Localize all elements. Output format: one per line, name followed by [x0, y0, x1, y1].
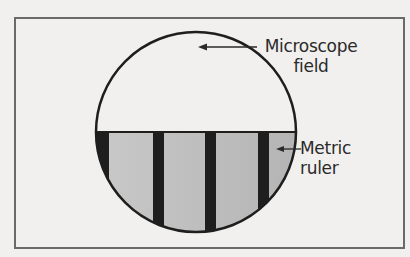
label-microscope-field: Microscope field [256, 36, 366, 76]
ruler-mark [205, 132, 216, 242]
label-metric-ruler: Metric ruler [300, 138, 351, 178]
metric-ruler [90, 132, 310, 242]
arrow-icon [198, 44, 257, 51]
ruler-mark [97, 132, 109, 242]
ruler-mark [258, 132, 269, 242]
